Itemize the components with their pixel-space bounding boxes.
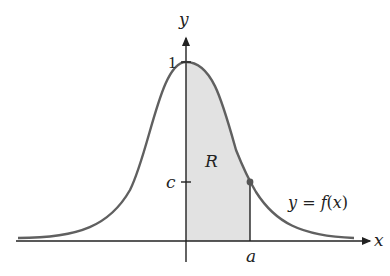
y-tick-c-label: c [166, 172, 176, 192]
y-axis-label: y [178, 9, 189, 29]
x-tick-a-label: a [246, 246, 256, 266]
curve-point [247, 179, 254, 186]
region-r-label: R [204, 151, 218, 171]
x-axis-label: x [374, 230, 384, 250]
curve-equation-label: y = f(x) [287, 193, 348, 212]
region-r-shade [186, 62, 250, 241]
graph-canvas: y x 1 c R a y = f(x) [0, 0, 390, 276]
y-tick-1-label: 1 [168, 53, 177, 72]
